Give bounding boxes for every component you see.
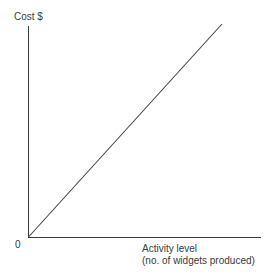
- x-axis-label-sub: (no. of widgets produced): [142, 255, 255, 267]
- y-axis-label: Cost $: [14, 11, 43, 23]
- origin-label: 0: [15, 239, 21, 251]
- chart-plot-area: [0, 0, 273, 279]
- chart-figure: Cost $ 0 Activity level (no. of widgets …: [0, 0, 273, 279]
- x-axis-label: Activity level: [142, 243, 197, 254]
- x-axis-label-block: Activity level (no. of widgets produced): [142, 243, 255, 267]
- variable-cost-line: [29, 24, 223, 237]
